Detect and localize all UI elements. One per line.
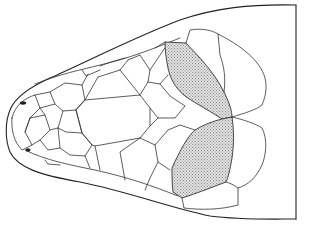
lower-nostril-icon bbox=[26, 148, 31, 152]
snout-scales bbox=[12, 92, 63, 150]
parietal-lower bbox=[172, 117, 234, 198]
parietal-upper bbox=[165, 42, 232, 119]
upper-labial-scales bbox=[35, 38, 180, 84]
head-scale-drawing bbox=[0, 0, 312, 227]
snake-head-diagram bbox=[0, 0, 312, 227]
head-outline bbox=[6, 5, 296, 219]
prefrontal-scales bbox=[50, 74, 92, 168]
lower-labial-scales bbox=[25, 150, 178, 196]
upper-nostril-icon bbox=[20, 101, 26, 104]
